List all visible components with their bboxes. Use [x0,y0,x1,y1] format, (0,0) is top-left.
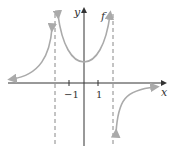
x-axis-label: x [161,86,168,99]
function-label: f [100,10,107,23]
curve-right-branch [116,87,155,133]
graph-canvas: y f x −1 1 [0,0,169,148]
y-axis-label: y [73,6,81,19]
tick-label-neg1: −1 [64,89,79,100]
tick-label-pos1: 1 [96,89,102,100]
curve-left-branch [12,28,52,79]
